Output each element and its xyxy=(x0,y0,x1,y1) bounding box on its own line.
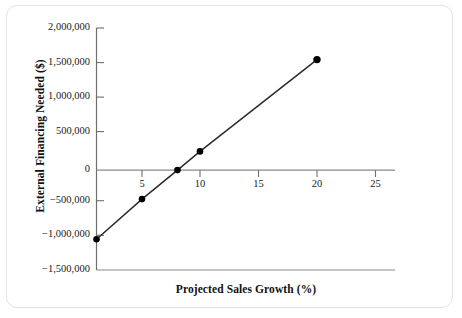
y-axis-ticks xyxy=(97,28,105,235)
xtick-label-25: 25 xyxy=(361,178,391,189)
xtick-label-15: 15 xyxy=(244,178,274,189)
ytick-label-2000000: 2,000,000 xyxy=(14,21,90,32)
ytick-label-0: 0 xyxy=(14,163,90,174)
data-line xyxy=(97,60,318,240)
chart-figure: 2,000,000 1,500,000 1,000,000 500,000 0 … xyxy=(0,0,462,318)
data-point xyxy=(313,56,320,63)
ytick-label-minus500000: −500,000 xyxy=(14,194,90,205)
xtick-label-20: 20 xyxy=(302,178,332,189)
data-point xyxy=(174,167,181,174)
ytick-label-500000: 500,000 xyxy=(14,125,90,136)
xtick-label-5: 5 xyxy=(127,178,157,189)
ytick-label-1000000: 1,000,000 xyxy=(14,90,90,101)
x-axis-title: Projected Sales Growth (%) xyxy=(96,283,396,295)
ytick-label-1500000: 1,500,000 xyxy=(14,56,90,67)
ytick-label-minus1500000: −1,500,000 xyxy=(14,263,90,274)
data-point xyxy=(93,236,100,243)
data-point xyxy=(197,148,204,155)
ytick-label-minus1000000: −1,000,000 xyxy=(14,228,90,239)
plot-area: 2,000,000 1,500,000 1,000,000 500,000 0 … xyxy=(0,0,462,318)
y-axis-title: External Financing Needed ($) xyxy=(34,26,46,246)
xtick-label-10: 10 xyxy=(185,178,215,189)
data-point xyxy=(139,196,146,203)
